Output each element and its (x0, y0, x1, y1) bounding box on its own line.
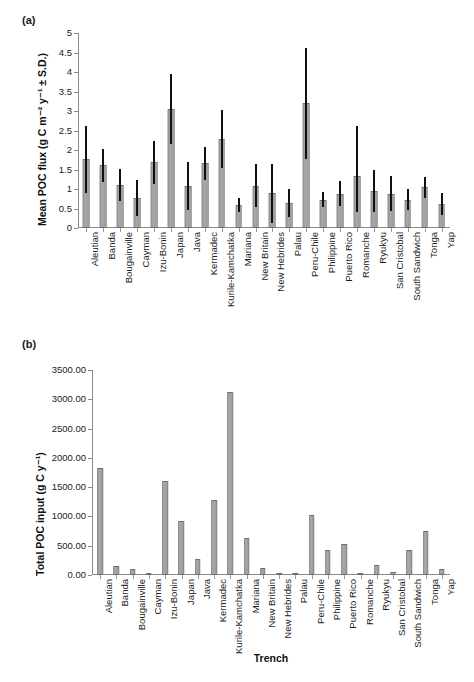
x-tick (425, 228, 426, 232)
panel-b-plot-area: 0.00500.001000.001500.002000.002500.0030… (92, 370, 450, 575)
bar-slot (108, 370, 124, 575)
y-tick (74, 53, 78, 54)
error-bar (441, 193, 443, 215)
x-tick-label: Romanche (365, 579, 375, 625)
bar-slot (287, 370, 303, 575)
x-tick-label: Puerto Rico (348, 579, 358, 629)
panel-a-plot-area: 00.511.522.533.544.55 (78, 33, 450, 228)
y-tick (88, 546, 92, 547)
bar-slot (304, 370, 320, 575)
y-tick (88, 516, 92, 517)
error-bar (424, 177, 426, 199)
x-tick (214, 575, 215, 579)
bar-slot (238, 370, 254, 575)
x-tick (165, 575, 166, 579)
x-tick (149, 575, 150, 579)
x-tick (230, 575, 231, 579)
y-tick (88, 575, 92, 576)
bar (228, 392, 234, 575)
x-tick-label: Java (192, 232, 202, 252)
bar-slot (385, 370, 401, 575)
x-tick (377, 575, 378, 579)
y-tick-label: 4.5 (59, 48, 72, 58)
x-tick-label: Romanche (361, 232, 371, 278)
x-tick (120, 228, 121, 232)
x-tick-label: Tonga (429, 232, 439, 258)
x-tick (328, 575, 329, 579)
x-tick-label: San Cristobal (397, 579, 407, 636)
error-bar (339, 181, 341, 206)
x-tick-label: Banda (107, 232, 117, 259)
y-tick-label: 1500.00 (52, 482, 86, 492)
x-tick-label: Ryukyu (378, 232, 388, 264)
x-tick-label: Cayman (141, 232, 151, 267)
y-tick-label: 1 (67, 184, 72, 194)
x-tick-label: New Hebrides (276, 232, 286, 292)
error-bar (407, 189, 409, 210)
bar-slot (382, 33, 399, 228)
bar-slot (190, 370, 206, 575)
error-bar (288, 189, 290, 218)
x-tick (361, 575, 362, 579)
y-tick (88, 458, 92, 459)
bar (195, 559, 201, 575)
y-tick-label: 0.5 (59, 204, 72, 214)
x-tick-label: Puerto Rico (344, 232, 354, 282)
y-tick (74, 131, 78, 132)
x-tick (263, 575, 264, 579)
bar-slot (399, 33, 416, 228)
bar-slot (141, 370, 157, 575)
error-bar (305, 48, 307, 159)
error-bar (119, 169, 121, 201)
x-tick-label: Yap (446, 232, 456, 248)
panel-a-label: (a) (22, 14, 35, 26)
x-tick-label: South Sandwich (413, 579, 423, 648)
y-tick-label: 0 (67, 223, 72, 233)
x-tick-label: Japan (186, 579, 196, 605)
y-tick (74, 92, 78, 93)
y-tick (74, 228, 78, 229)
y-tick-label: 500.00 (57, 541, 86, 551)
x-tick-label: Izu-Bonin (169, 579, 179, 619)
error-bar (153, 141, 155, 183)
figure-container: (a) Mean POC flux (g C m⁻² y⁻¹ ± S.D.) 0… (0, 0, 474, 682)
x-tick (182, 575, 183, 579)
bar-slot (433, 33, 450, 228)
panel-b-y-axis-title: Total POC input (g C y⁻¹) (34, 452, 46, 576)
panel-a-bars (78, 33, 450, 228)
x-tick-label: South Sandwich (412, 232, 422, 301)
y-tick-label: 1000.00 (52, 512, 86, 522)
y-tick-label: 2.5 (59, 126, 72, 136)
bar (244, 538, 250, 575)
bar-slot (332, 33, 349, 228)
x-tick (256, 228, 257, 232)
x-tick (409, 575, 410, 579)
error-bar (373, 170, 375, 212)
y-tick-label: 2500.00 (52, 424, 86, 434)
bar-slot (78, 33, 95, 228)
bar-slot (112, 33, 129, 228)
bar-slot (255, 370, 271, 575)
bar-slot (417, 370, 433, 575)
error-bar (187, 162, 189, 210)
x-tick-label: Japan (175, 232, 185, 258)
y-tick (88, 487, 92, 488)
bar-slot (352, 370, 368, 575)
x-tick (205, 228, 206, 232)
bar-slot (365, 33, 382, 228)
y-tick (74, 189, 78, 190)
x-tick-label: Peru-Chile (316, 579, 326, 624)
bar-slot (298, 33, 315, 228)
panel-b-label: (b) (22, 338, 36, 350)
y-tick (74, 150, 78, 151)
bar-slot (196, 33, 213, 228)
x-tick (239, 228, 240, 232)
bar-slot (401, 370, 417, 575)
bar (162, 481, 168, 575)
x-tick (222, 228, 223, 232)
x-tick (344, 575, 345, 579)
bar-slot (247, 33, 264, 228)
panel-b: (b) Total POC input (g C y⁻¹) 0.00500.00… (0, 330, 474, 682)
x-tick (279, 575, 280, 579)
x-tick (247, 575, 248, 579)
